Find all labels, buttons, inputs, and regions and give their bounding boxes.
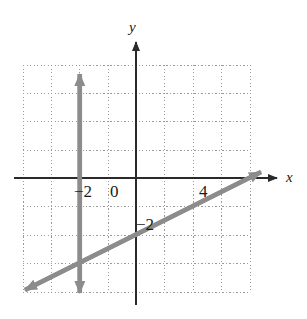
coordinate-plane-canvas <box>0 0 307 319</box>
x-tick-label-4: 4 <box>199 183 208 200</box>
y-axis-label: y <box>129 20 136 35</box>
origin-label-zero: 0 <box>110 183 119 200</box>
x-axis-label: x <box>286 170 293 185</box>
x-tick-label-neg2: −2 <box>74 183 92 200</box>
y-tick-label-neg2: −2 <box>136 216 154 233</box>
graph-figure: y x −2 0 4 −2 <box>0 0 307 319</box>
